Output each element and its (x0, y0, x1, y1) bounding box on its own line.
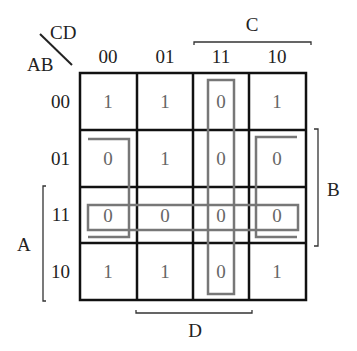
cell-11-00: 0 (103, 205, 113, 226)
cell-00-10: 1 (272, 91, 282, 112)
cell-11-10: 0 (272, 205, 282, 226)
col-header-01: 01 (156, 46, 175, 67)
bracket-label-c: C (246, 14, 259, 35)
cell-11-01: 0 (160, 205, 170, 226)
cell-10-10: 1 (272, 261, 282, 282)
col-header-00: 00 (99, 46, 118, 67)
row-header-11: 11 (52, 204, 70, 225)
row-header-00: 00 (51, 91, 70, 112)
col-header-11: 11 (212, 46, 230, 67)
cell-11-11: 0 (216, 205, 226, 226)
bracket-label-a: A (17, 234, 31, 255)
bracket-label-b: B (327, 179, 340, 200)
cell-10-00: 1 (103, 261, 113, 282)
cell-01-01: 1 (160, 148, 170, 169)
bracket-a (43, 186, 46, 301)
karnaugh-map: CD AB 00 01 11 10 00 01 11 10 C B A D 1 … (0, 0, 357, 351)
cell-01-10: 0 (272, 148, 282, 169)
row-var-label: AB (27, 54, 53, 75)
cell-10-01: 1 (160, 261, 170, 282)
bracket-label-d: D (188, 320, 202, 341)
cell-00-01: 1 (160, 91, 170, 112)
cell-01-00: 0 (103, 148, 113, 169)
bracket-d (136, 310, 252, 313)
bracket-c (194, 42, 311, 45)
row-header-01: 01 (51, 148, 70, 169)
cell-01-11: 0 (216, 148, 226, 169)
cell-00-00: 1 (103, 91, 113, 112)
col-var-label: CD (50, 22, 76, 43)
row-header-10: 10 (51, 261, 70, 282)
bracket-b (314, 129, 318, 246)
col-header-10: 10 (268, 46, 287, 67)
cell-10-11: 0 (216, 261, 226, 282)
cell-00-11: 0 (216, 91, 226, 112)
